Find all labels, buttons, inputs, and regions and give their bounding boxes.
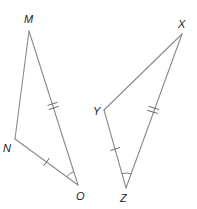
vertex-label-x: X xyxy=(177,18,186,30)
angle-arc-z xyxy=(122,173,131,174)
congruent-triangles-diagram: M N O X Y Z xyxy=(0,0,197,209)
edge-xz xyxy=(126,34,182,188)
triangle-mno xyxy=(15,31,78,185)
edge-mn xyxy=(15,31,29,139)
edge-xy xyxy=(104,34,182,110)
vertex-label-n: N xyxy=(3,142,11,154)
vertex-label-y: Y xyxy=(93,105,101,117)
vertex-label-o: O xyxy=(76,190,85,202)
vertex-label-m: M xyxy=(24,13,34,25)
angle-arc-o xyxy=(67,172,74,177)
vertex-label-z: Z xyxy=(119,192,128,204)
triangle-xyz xyxy=(104,34,182,188)
double-tick-xz xyxy=(147,106,159,113)
single-tick-no xyxy=(44,158,50,166)
